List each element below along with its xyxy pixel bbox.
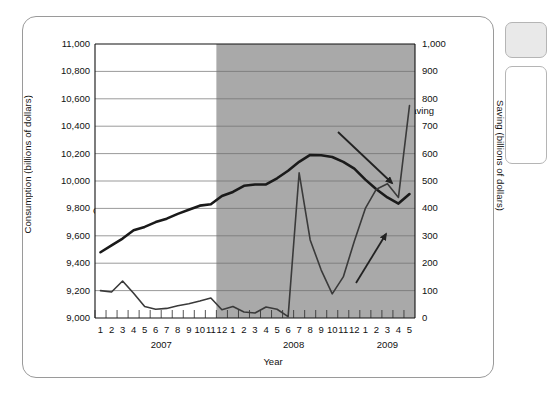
chart-plot-area [0, 0, 530, 395]
chart-page: Consumption (billions of dollars) Saving… [0, 0, 530, 395]
